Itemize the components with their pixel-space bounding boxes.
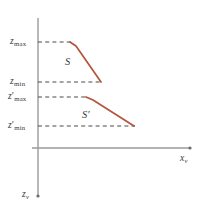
tick-label-z-prime-min-sub: min	[14, 124, 25, 131]
z-axis-label-sub: v	[26, 193, 29, 200]
tick-label-z-prime-max: z'max	[8, 92, 26, 102]
x-axis-label: xv	[180, 154, 187, 164]
z-axis-label: zv	[22, 190, 29, 200]
tick-label-z-prime-max-sub: max	[14, 95, 26, 102]
tick-label-z-max-sub: max	[14, 40, 26, 47]
viewing-frustum-diagram: zmax zmin z'max z'min S S' xv zv	[0, 0, 207, 211]
tick-label-z-prime-min: z'min	[8, 121, 25, 131]
tick-label-z-min: zmin	[10, 77, 25, 87]
x-axis-endpoint-dot	[188, 146, 191, 149]
x-axis-label-sub: v	[185, 157, 188, 164]
z-axis-endpoint-dot	[36, 194, 39, 197]
tick-label-z-min-sub: min	[14, 80, 25, 87]
surface-label-s: S	[65, 57, 70, 68]
diagram-canvas	[0, 0, 207, 211]
tick-label-z-max: zmax	[10, 37, 26, 47]
surface-label-s-prime: S'	[82, 110, 90, 121]
tick-label-z-prime-min-prime: '	[11, 120, 13, 130]
x-axis-label-base: x	[180, 153, 184, 163]
tick-label-z-prime-max-prime: '	[11, 91, 13, 101]
surface-s-line	[70, 42, 101, 82]
surface-s-prime-line	[86, 97, 134, 126]
